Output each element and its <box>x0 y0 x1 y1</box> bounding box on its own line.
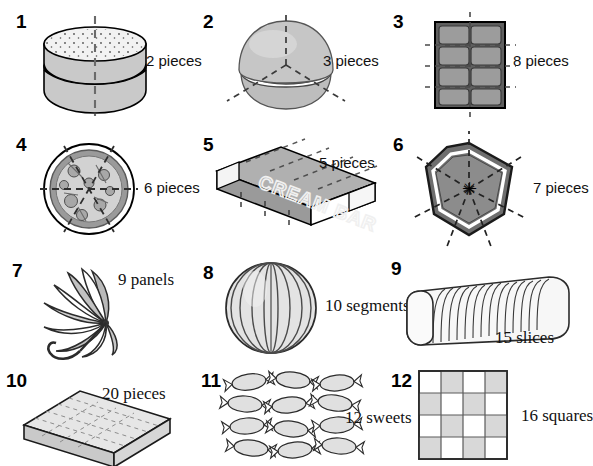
sweet-icon <box>225 437 276 458</box>
pizza-icon <box>34 133 144 245</box>
sweet-icon <box>263 394 314 415</box>
item-label-2: 3 pieces <box>323 53 379 68</box>
sweet-icon <box>314 436 365 455</box>
sweet-icon <box>223 371 275 394</box>
item-7: 7 9 panels <box>0 253 195 365</box>
item-4: 4 <box>0 125 195 253</box>
heptagon-icon: ✳ <box>409 131 529 251</box>
item-number-2: 2 <box>203 12 214 31</box>
sweet-icon <box>265 419 316 439</box>
item-label-9: 15 slices <box>495 329 554 346</box>
item-5: 5 CREAM BAR <box>195 125 385 253</box>
sweet-icon <box>220 394 271 413</box>
item-number-6: 6 <box>393 135 404 154</box>
item-6: 6 ✳ 7 pieces <box>385 125 583 253</box>
chocolate-bar-icon <box>421 10 525 120</box>
item-3: 3 8 pieces <box>385 0 583 125</box>
item-label-1: 2 pieces <box>146 53 202 68</box>
item-label-3: 8 pieces <box>513 53 569 68</box>
item-11: 11 <box>195 365 385 466</box>
item-10: 10 20 pieces <box>0 365 195 466</box>
sweet-icon <box>222 416 273 435</box>
item-number-3: 3 <box>393 12 404 31</box>
sweet-icon <box>267 369 318 390</box>
svg-text:✳: ✳ <box>462 179 477 199</box>
item-number-12: 12 <box>391 371 412 390</box>
checkerboard-icon <box>417 369 509 461</box>
sweet-icon <box>269 440 320 460</box>
bun-icon <box>36 14 154 118</box>
item-label-5: 5 pieces <box>319 155 375 170</box>
item-label-12: 16 squares <box>521 407 593 424</box>
item-number-8: 8 <box>203 263 214 282</box>
sweets-group <box>223 371 363 463</box>
item-label-10: 20 pieces <box>102 385 166 402</box>
item-1: 1 2 pie <box>0 0 195 125</box>
item-number-11: 11 <box>201 371 221 390</box>
item-12: 12 16 squares <box>385 365 583 466</box>
item-number-1: 1 <box>16 12 27 31</box>
item-label-4: 6 pieces <box>144 180 200 195</box>
item-8: 8 10 segments <box>195 253 385 365</box>
item-2: 2 3 pieces <box>195 0 385 125</box>
item-number-4: 4 <box>16 135 27 154</box>
melon-icon <box>219 257 323 359</box>
item-label-7: 9 panels <box>118 271 174 288</box>
item-label-6: 7 pieces <box>533 180 589 195</box>
item-9: 9 <box>385 253 583 365</box>
